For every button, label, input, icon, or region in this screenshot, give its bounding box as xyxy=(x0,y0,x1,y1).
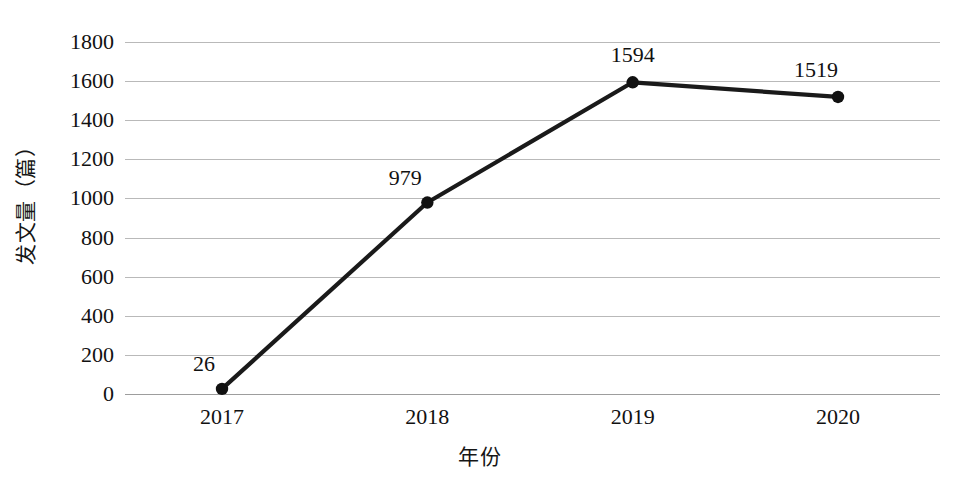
x-tick-label: 2019 xyxy=(611,404,655,430)
x-tick-label: 2017 xyxy=(200,404,244,430)
y-tick-label: 0 xyxy=(40,383,114,405)
y-tick-label: 1000 xyxy=(40,187,114,209)
data-point-marker xyxy=(832,91,844,103)
y-axis-title-text: 发文量（篇） xyxy=(8,136,38,265)
series-polyline xyxy=(222,82,838,389)
x-tick-label: 2020 xyxy=(816,404,860,430)
x-axis-tick-labels: 2017201820192020 xyxy=(125,404,940,438)
data-point-marker xyxy=(421,196,433,208)
x-tick-label: 2018 xyxy=(405,404,449,430)
y-tick-label: 800 xyxy=(40,227,114,249)
y-tick-label: 1600 xyxy=(40,70,114,92)
data-point-marker xyxy=(626,76,638,88)
y-tick-label: 400 xyxy=(40,305,114,327)
plot-area: 2697915941519 xyxy=(125,0,940,420)
y-tick-label: 1800 xyxy=(40,31,114,53)
y-tick-label: 1400 xyxy=(40,109,114,131)
x-axis-title: 年份 xyxy=(0,440,960,470)
data-point-label: 979 xyxy=(389,167,422,189)
data-point-marker xyxy=(216,383,228,395)
data-point-label: 1594 xyxy=(611,44,655,66)
y-tick-label: 600 xyxy=(40,266,114,288)
y-tick-label: 200 xyxy=(40,344,114,366)
data-point-label: 1519 xyxy=(794,59,838,81)
y-axis-tick-labels: 180016001400120010008006004002000 xyxy=(40,0,114,420)
data-point-label: 26 xyxy=(193,353,215,375)
line-chart-figure: 发文量（篇） 180016001400120010008006004002000… xyxy=(0,0,960,495)
y-tick-label: 1200 xyxy=(40,148,114,170)
